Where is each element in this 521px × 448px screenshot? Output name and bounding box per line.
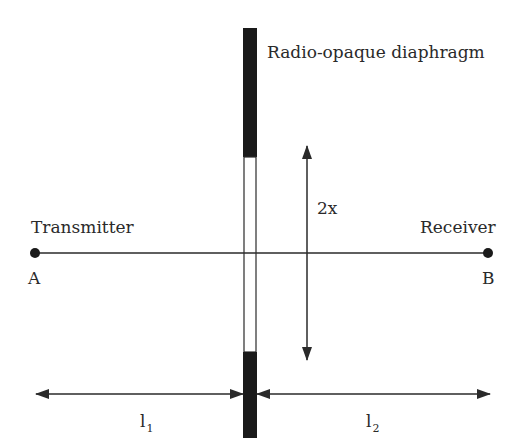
receiver-label: Receiver [420, 219, 496, 236]
distance-l2-label: l2 [366, 413, 379, 430]
point-b-label: B [482, 270, 495, 287]
distance-l2-subscript: 2 [372, 422, 379, 435]
point-a-label: A [28, 270, 40, 287]
diaphragm-bottom [243, 352, 257, 438]
point-b-dot [483, 248, 493, 258]
diaphragm-top [243, 28, 257, 157]
distance-l1-subscript: 1 [146, 422, 153, 435]
transmitter-label: Transmitter [31, 219, 134, 236]
aperture-label: 2x [317, 200, 337, 217]
distance-l1-base: l [140, 411, 145, 431]
diaphragm-label: Radio-opaque diaphragm [267, 44, 485, 61]
point-a-dot [30, 248, 40, 258]
diaphragm-aperture [244, 157, 256, 352]
distance-l1-label: l1 [140, 413, 153, 430]
distance-l2-base: l [366, 411, 371, 431]
